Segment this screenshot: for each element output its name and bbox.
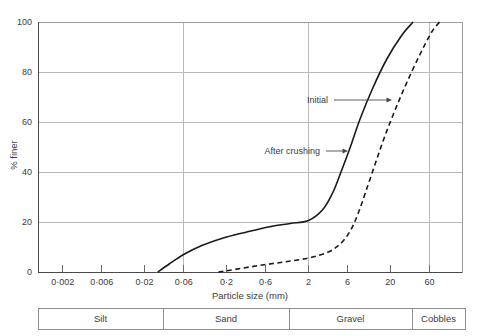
classification-cell-label: Silt <box>94 313 108 324</box>
plot-gridlines <box>38 22 462 272</box>
x-tick-label: 20 <box>385 277 395 287</box>
x-tick-label: 0·2 <box>220 277 233 287</box>
y-tick-label: 100 <box>17 17 32 27</box>
y-tick-label: 0 <box>27 267 32 277</box>
x-tick-label: 60 <box>424 277 434 287</box>
particle-size-distribution-chart: 0·0020·0060·020·060·20·6262060 020406080… <box>0 0 480 336</box>
classification-cell-label: Sand <box>215 313 237 324</box>
x-axis-title-text: Particle size (mm) <box>212 290 288 301</box>
x-tick-label: 0·006 <box>90 277 113 287</box>
x-axis-title: Particle size (mm) <box>212 290 288 301</box>
soil-classification-bar: SiltSandGravelCobbles <box>38 308 465 329</box>
annotation-after-crushing-label: After crushing <box>264 146 320 156</box>
chart-canvas: 0·0020·0060·020·060·20·6262060 020406080… <box>0 0 480 336</box>
x-axis-ticks: 0·0020·0060·020·060·20·6262060 <box>51 265 434 287</box>
y-axis-title: % finer <box>8 140 19 170</box>
x-tick-label: 2 <box>306 277 311 287</box>
x-tick-label: 6 <box>345 277 350 287</box>
annotation-after-crushing: After crushing <box>264 146 348 156</box>
x-tick-label: 0·002 <box>51 277 74 287</box>
classification-cell-label: Cobbles <box>421 313 456 324</box>
annotation-initial-label: Initial <box>307 95 328 105</box>
series-initial <box>219 22 440 272</box>
y-tick-label: 80 <box>22 67 32 77</box>
y-tick-label: 40 <box>22 167 32 177</box>
y-tick-label: 60 <box>22 117 32 127</box>
annotation-initial: Initial <box>307 95 392 105</box>
y-axis-title-text: % finer <box>8 140 19 170</box>
x-tick-label: 0·06 <box>175 277 193 287</box>
x-tick-label: 0·02 <box>136 277 154 287</box>
plot-frame <box>38 22 462 272</box>
x-tick-label: 0·6 <box>259 277 272 287</box>
y-tick-label: 20 <box>22 217 32 227</box>
y-axis-tick-labels: 020406080100 <box>17 17 32 277</box>
classification-cell-label: Gravel <box>337 313 365 324</box>
